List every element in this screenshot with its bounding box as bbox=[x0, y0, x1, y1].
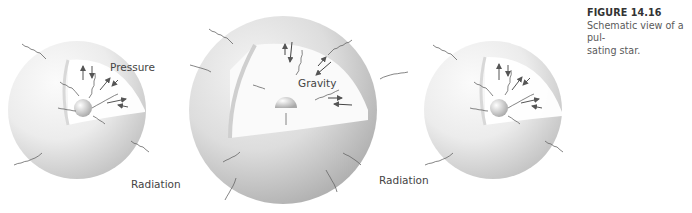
right-star bbox=[424, 41, 563, 179]
radiation-label-left: Radiation bbox=[131, 178, 181, 190]
caption-line-2: sating star. bbox=[587, 45, 692, 58]
center-star bbox=[189, 16, 408, 204]
radiation-label-center: Radiation bbox=[379, 174, 429, 186]
caption-line-1: Schematic view of a pul- bbox=[587, 20, 692, 45]
gravity-label: Gravity bbox=[298, 77, 336, 89]
figure-number: FIGURE 14.16 bbox=[587, 7, 692, 20]
figure-caption: FIGURE 14.16 Schematic view of a pul- sa… bbox=[587, 7, 692, 57]
pressure-label: Pressure bbox=[110, 61, 155, 73]
